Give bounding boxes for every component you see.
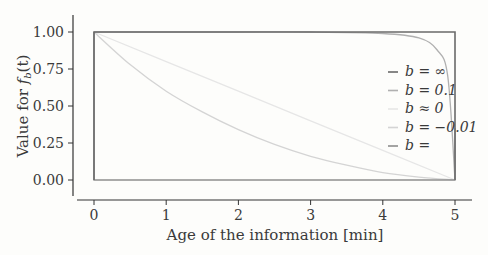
x-tick-label: 4 [378, 207, 387, 223]
x-ticks: 012345 [90, 200, 460, 223]
series-line [94, 32, 455, 180]
chart: 0.000.250.500.751.00 012345 b = ∞b = 0.1… [0, 0, 488, 255]
x-tick-label: 0 [90, 207, 99, 223]
x-tick-label: 5 [451, 207, 460, 223]
legend-label: b = ∞ [405, 63, 446, 79]
y-axis-label: Value for fb(t) [14, 55, 33, 159]
y-tick-label: 0.00 [33, 172, 64, 188]
y-tick-label: 1.00 [33, 24, 64, 40]
legend-label: b ≈ 0 [405, 100, 444, 116]
legend-label: b = 0.1 [405, 82, 457, 98]
legend-label: b = [405, 137, 430, 153]
legend-label: b = −0.01 [405, 119, 478, 135]
y-tick-label: 0.25 [33, 135, 64, 151]
y-tick-label: 0.50 [33, 98, 64, 114]
x-axis-label: Age of the information [min] [166, 226, 384, 244]
x-tick-label: 2 [234, 207, 243, 223]
x-tick-label: 3 [306, 207, 315, 223]
legend: b = ∞b = 0.1b ≈ 0b = −0.01b = [388, 63, 478, 153]
y-tick-label: 0.75 [33, 61, 64, 77]
x-tick-label: 1 [162, 207, 171, 223]
series-lines [94, 32, 455, 180]
y-ticks: 0.000.250.500.751.00 [33, 24, 73, 188]
